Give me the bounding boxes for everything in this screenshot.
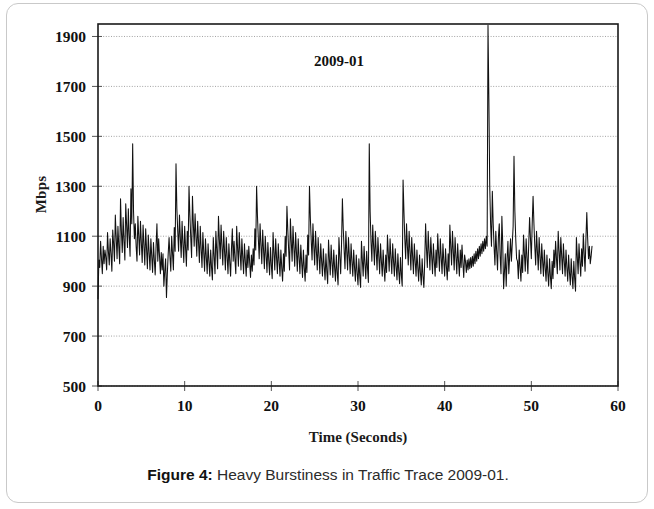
x-tick-label: 50 <box>524 397 540 414</box>
traffic-trace-chart: 50070090011001300150017001900 0102030405… <box>7 4 649 464</box>
x-axis-title: Time (Seconds) <box>98 429 618 446</box>
chart-annotation-label: 2009-01 <box>314 53 364 69</box>
y-tick-label: 1500 <box>55 128 86 145</box>
x-tick-label: 30 <box>350 397 366 414</box>
figure-caption-text: Heavy Burstiness in Traffic Trace 2009-0… <box>213 466 509 483</box>
x-tick-label: 40 <box>437 397 453 414</box>
y-tick-label: 900 <box>63 278 87 295</box>
y-tick-label: 500 <box>63 378 87 395</box>
figure-caption: Figure 4: Heavy Burstiness in Traffic Tr… <box>7 466 649 484</box>
figure-page: 50070090011001300150017001900 0102030405… <box>6 3 648 503</box>
y-tick-label: 1700 <box>55 78 86 95</box>
y-tick-label: 700 <box>63 328 87 345</box>
figure-caption-label: Figure 4: <box>147 466 212 483</box>
x-tick-label: 10 <box>177 397 193 414</box>
figure-container: 50070090011001300150017001900 0102030405… <box>7 4 649 504</box>
x-tick-label: 60 <box>610 397 626 414</box>
x-tick-label: 20 <box>264 397 280 414</box>
x-tick-label: 0 <box>94 397 102 414</box>
y-axis-title: Mbps <box>33 155 50 235</box>
y-tick-label: 1300 <box>55 178 86 195</box>
y-tick-label: 1100 <box>56 228 86 245</box>
y-tick-label: 1900 <box>55 28 86 45</box>
